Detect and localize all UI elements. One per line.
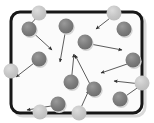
wall-collision-particle — [135, 76, 150, 91]
gas-particle-diagram — [0, 0, 154, 123]
gas-particle — [113, 92, 128, 107]
gas-particle — [51, 97, 66, 112]
gas-particle — [64, 75, 79, 90]
gas-particle — [126, 53, 141, 68]
wall-collision-particle — [107, 6, 122, 21]
gas-particle — [59, 19, 74, 34]
wall-collision-particle — [32, 6, 47, 21]
wall-collision-particle — [72, 106, 87, 121]
gas-diagram-canvas — [0, 0, 154, 123]
gas-particle — [117, 22, 132, 37]
gas-particle — [22, 22, 37, 37]
wall-collision-particle — [4, 64, 19, 79]
wall-collision-particle — [33, 105, 48, 120]
gas-particle — [78, 35, 93, 50]
gas-particle — [87, 82, 102, 97]
gas-particle — [32, 52, 47, 67]
